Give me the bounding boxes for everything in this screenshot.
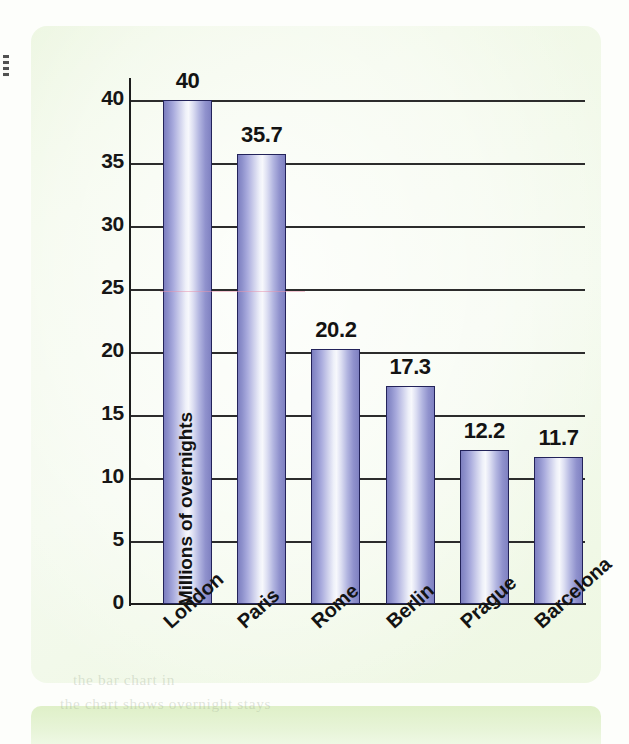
print-artifact-line [160,291,305,292]
bar-value-label: 40 [143,68,233,94]
bar-value-label: 20.2 [291,317,381,343]
bar-chart: 0510152025303540 Millions of overnights … [0,0,629,744]
y-tick-label: 15 [90,401,124,425]
y-tick-label: 0 [90,590,124,614]
bar-value-label: 11.7 [514,425,604,451]
y-tick-label: 20 [90,338,124,362]
bar-value-label: 17.3 [365,354,455,380]
y-tick-label: 5 [90,527,124,551]
y-tick-label: 25 [90,275,124,299]
plot-area [131,100,585,604]
y-tick-label: 10 [90,464,124,488]
y-tick-label: 30 [90,212,124,236]
bar[interactable] [311,349,360,604]
bar-value-label: 35.7 [217,122,307,148]
y-axis-ticks: 0510152025303540 [84,0,124,744]
y-tick-label: 35 [90,149,124,173]
bar[interactable] [237,154,286,604]
y-tick-label: 40 [90,86,124,110]
bar[interactable] [386,386,435,604]
page-root: the bar chart in the chart shows overnig… [0,0,629,744]
